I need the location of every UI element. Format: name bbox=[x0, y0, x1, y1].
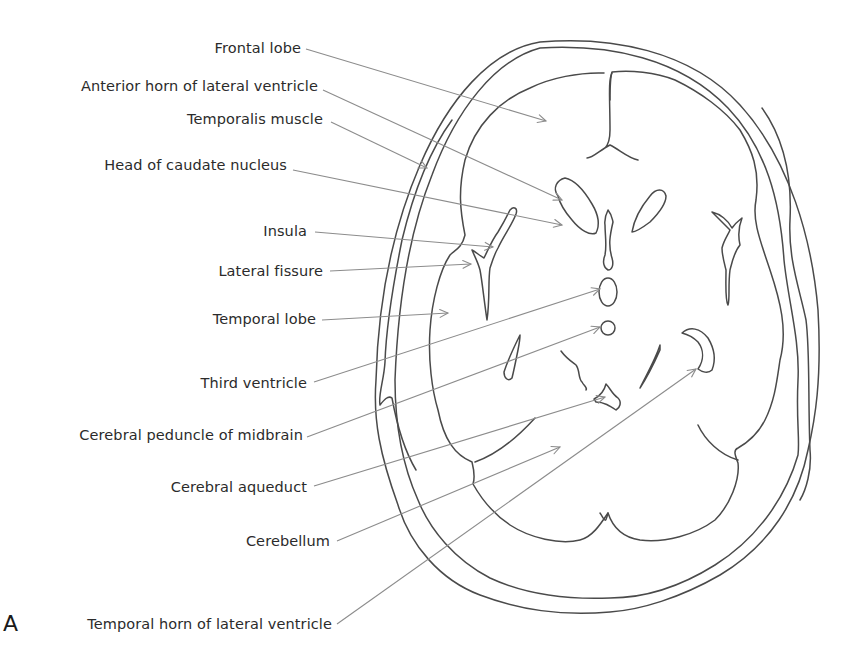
right-midbrain-slit bbox=[640, 345, 660, 388]
leader-line-cerebral-peduncle-of-midbrain bbox=[307, 327, 600, 437]
leader-line-cerebellum bbox=[337, 447, 560, 541]
label-lateral-fissure: Lateral fissure bbox=[218, 262, 323, 280]
leader-line-temporal-lobe bbox=[322, 313, 448, 320]
brain-axial-section-diagram bbox=[0, 0, 849, 654]
midbrain-tegmentum-shape bbox=[594, 384, 620, 410]
leader-line-lateral-fissure bbox=[330, 264, 471, 271]
leader-line-frontal-lobe bbox=[306, 49, 546, 121]
septum-pellucidum bbox=[604, 210, 613, 270]
label-frontal-lobe: Frontal lobe bbox=[215, 39, 301, 57]
lateral-fissure-right bbox=[712, 212, 742, 305]
label-insula: Insula bbox=[263, 222, 307, 240]
leader-line-head-of-caudate-nucleus bbox=[293, 170, 562, 225]
cerebral-peduncle-shape bbox=[561, 351, 587, 390]
temporalis-outline-right bbox=[762, 108, 810, 500]
temporalis-outline-left bbox=[380, 120, 452, 470]
leader-lines bbox=[293, 49, 696, 624]
leader-line-temporal-horn-lateral-ventricle bbox=[337, 369, 696, 624]
label-cerebral-peduncle-of-midbrain: Cerebral peduncle of midbrain bbox=[79, 426, 303, 444]
label-temporal-lobe: Temporal lobe bbox=[213, 310, 316, 328]
label-temporalis-muscle: Temporalis muscle bbox=[187, 110, 323, 128]
label-third-ventricle: Third ventricle bbox=[201, 374, 307, 392]
cerebral-aqueduct-shape bbox=[601, 321, 615, 335]
interhemispheric-fissure bbox=[587, 73, 638, 160]
temporal-horn-left bbox=[504, 335, 520, 380]
label-head-of-caudate-nucleus: Head of caudate nucleus bbox=[104, 156, 287, 174]
leader-line-third-ventricle bbox=[314, 289, 600, 382]
label-temporal-horn-lateral-ventricle: Temporal horn of lateral ventricle bbox=[87, 615, 332, 633]
temporal-horn-right bbox=[682, 329, 714, 372]
label-anterior-horn-lateral-ventricle: Anterior horn of lateral ventricle bbox=[81, 77, 318, 95]
label-cerebral-aqueduct: Cerebral aqueduct bbox=[171, 478, 307, 496]
leader-line-temporalis-muscle bbox=[331, 122, 427, 168]
third-ventricle-shape bbox=[599, 278, 617, 306]
lateral-fissure-left bbox=[472, 208, 517, 320]
leader-line-cerebral-aqueduct bbox=[314, 397, 605, 486]
skull-inner-outline bbox=[395, 47, 799, 598]
anterior-horn-right bbox=[632, 190, 666, 232]
panel-letter: A bbox=[3, 611, 18, 636]
label-cerebellum: Cerebellum bbox=[246, 532, 330, 550]
